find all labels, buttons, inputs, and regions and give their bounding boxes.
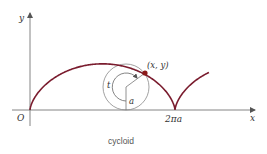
- radius-label: a: [129, 96, 134, 106]
- point-marker: [142, 70, 147, 75]
- point-label: (x, y): [147, 60, 169, 70]
- x-axis-label: x: [250, 113, 255, 123]
- y-axis-label: y: [18, 13, 25, 23]
- cycloid-diagram: y x O (x, y) t a 2πa cycloid: [0, 0, 267, 154]
- origin-label: O: [17, 113, 25, 123]
- angle-label: t: [107, 80, 111, 90]
- cycloid-curve: [30, 64, 209, 110]
- period-label: 2πa: [164, 114, 182, 124]
- radius-to-point: [126, 73, 145, 87]
- figure-caption: cycloid: [108, 136, 134, 146]
